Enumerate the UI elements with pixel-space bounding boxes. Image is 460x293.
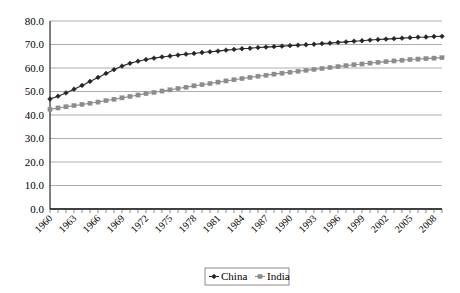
data-point-marker	[432, 56, 436, 60]
data-point-marker	[160, 89, 164, 93]
x-tick-label: 1960	[32, 213, 54, 235]
data-point-marker	[192, 84, 196, 88]
data-point-marker	[280, 71, 284, 75]
x-tick-label: 1966	[80, 213, 102, 235]
x-axis-ticks	[50, 209, 442, 213]
legend-label-china: China	[221, 270, 247, 282]
legend-label-india: India	[267, 270, 290, 282]
data-point-marker	[56, 106, 60, 110]
y-axis-tick-labels: 0.010.020.030.040.050.060.070.080.0	[25, 15, 45, 215]
x-tick-label: 1975	[152, 213, 174, 235]
data-point-marker	[440, 34, 445, 39]
data-point-marker	[144, 92, 148, 96]
x-tick-label: 1984	[224, 213, 246, 235]
plot-gridlines	[50, 21, 442, 209]
data-point-marker	[296, 43, 301, 48]
data-point-marker	[248, 46, 253, 51]
chart-canvas: 0.010.020.030.040.050.060.070.080.0 1960…	[0, 0, 460, 293]
x-tick-label: 1993	[296, 213, 318, 235]
data-point-marker	[208, 81, 212, 85]
data-point-marker	[272, 44, 277, 49]
data-point-marker	[64, 105, 68, 109]
data-point-marker	[248, 75, 252, 79]
data-point-marker	[328, 65, 332, 69]
data-point-marker	[136, 59, 141, 64]
data-point-marker	[200, 83, 204, 87]
data-point-marker	[112, 97, 116, 101]
data-point-marker	[440, 56, 444, 60]
data-point-marker	[72, 104, 76, 108]
data-point-marker	[344, 64, 348, 68]
data-point-marker	[264, 73, 268, 77]
data-point-marker	[320, 41, 325, 46]
data-point-marker	[304, 42, 309, 47]
data-point-marker	[352, 39, 357, 44]
data-point-marker	[232, 78, 236, 82]
data-point-marker	[384, 37, 389, 42]
data-point-marker	[312, 42, 317, 47]
data-point-marker	[216, 80, 220, 84]
data-point-marker	[320, 66, 324, 70]
data-point-marker	[400, 36, 405, 41]
data-point-marker	[104, 99, 108, 103]
data-point-marker	[104, 71, 109, 76]
data-point-marker	[272, 72, 276, 76]
data-point-marker	[184, 85, 188, 89]
data-point-marker	[72, 87, 77, 92]
series-lines	[48, 34, 445, 112]
y-tick-label: 60.0	[25, 62, 45, 74]
data-point-marker	[168, 54, 173, 59]
data-point-marker	[400, 58, 404, 62]
y-tick-label: 80.0	[25, 15, 45, 27]
data-point-marker	[128, 61, 133, 66]
data-point-marker	[200, 50, 205, 55]
data-point-marker	[352, 63, 356, 67]
x-tick-label: 2005	[392, 213, 414, 235]
data-point-marker	[304, 68, 308, 72]
data-point-marker	[96, 75, 101, 80]
data-point-marker	[424, 35, 429, 40]
x-tick-label: 1972	[128, 213, 150, 235]
series-line	[50, 58, 442, 110]
data-point-marker	[416, 35, 421, 40]
x-tick-label: 2002	[368, 213, 390, 235]
y-tick-label: 70.0	[25, 38, 45, 50]
x-tick-label: 1963	[56, 213, 78, 235]
y-tick-label: 20.0	[25, 156, 45, 168]
line-chart: 0.010.020.030.040.050.060.070.080.0 1960…	[0, 0, 460, 293]
data-point-marker	[176, 86, 180, 90]
x-tick-label: 1999	[344, 213, 366, 235]
data-point-marker	[296, 69, 300, 73]
x-tick-label: 1987	[248, 213, 270, 235]
data-point-marker	[264, 45, 269, 50]
data-point-marker	[224, 48, 229, 53]
data-point-marker	[56, 94, 61, 99]
data-point-marker	[184, 52, 189, 57]
data-point-marker	[208, 49, 213, 54]
data-point-marker	[240, 46, 245, 51]
data-point-marker	[416, 57, 420, 61]
data-point-marker	[80, 102, 84, 106]
data-point-marker	[224, 79, 228, 83]
data-point-marker	[336, 40, 341, 45]
data-point-marker	[80, 83, 85, 88]
x-tick-label: 1981	[200, 213, 222, 235]
data-point-marker	[88, 79, 93, 84]
x-axis-tick-labels: 1960196319661969197219751978198119841987…	[32, 213, 438, 235]
data-point-marker	[408, 35, 413, 40]
data-point-marker	[408, 57, 412, 61]
y-tick-label: 50.0	[25, 85, 45, 97]
x-tick-label: 1969	[104, 213, 126, 235]
data-point-marker	[128, 94, 132, 98]
data-point-marker	[392, 36, 397, 41]
data-point-marker	[168, 88, 172, 92]
data-point-marker	[160, 55, 165, 60]
data-point-marker	[232, 47, 237, 52]
data-point-marker	[312, 67, 316, 71]
x-tick-label: 1996	[320, 213, 342, 235]
data-point-marker	[144, 57, 149, 62]
data-point-marker	[152, 56, 157, 61]
y-tick-label: 40.0	[25, 109, 45, 121]
x-tick-label: 1990	[272, 213, 294, 235]
data-point-marker	[336, 64, 340, 68]
